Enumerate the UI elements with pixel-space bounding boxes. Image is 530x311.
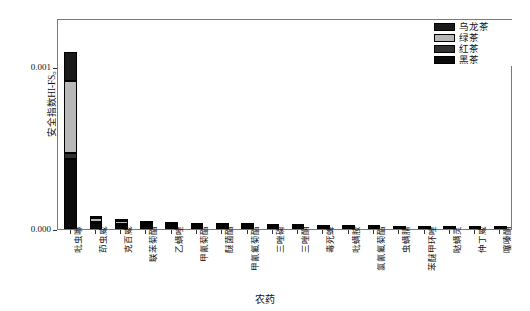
x-tick-label: 毒死蜱: [326, 226, 335, 288]
x-tick-label: 哒螨灵: [453, 226, 462, 288]
x-tick-mark: [221, 230, 222, 234]
x-tick-label: 苯醚甲环唑: [428, 226, 437, 288]
x-tick-mark: [171, 230, 172, 234]
legend-swatch: [434, 34, 455, 42]
x-tick-label: 甲氰菊酯: [200, 226, 209, 288]
x-tick-label: 乙螨唑: [175, 226, 184, 288]
x-tick-mark: [373, 230, 374, 234]
legend-item: 黑茶: [434, 54, 510, 65]
x-tick-mark: [70, 230, 71, 234]
legend-swatch: [434, 45, 455, 53]
x-tick-label: 吡虫啉: [74, 226, 83, 288]
x-axis-title: 农药: [0, 291, 530, 306]
legend-label: 黑茶: [459, 55, 479, 65]
x-tick-mark: [449, 230, 450, 234]
chart-legend: 乌龙茶绿茶红茶黑茶: [432, 20, 512, 66]
bar-segment: [64, 81, 77, 152]
x-tick-label: 噻嗪酮: [503, 226, 512, 288]
x-tick-label: 三唑酮: [301, 226, 310, 288]
y-tick-mark: [53, 230, 57, 231]
x-tick-label: 氯氰氟菊酯: [377, 226, 386, 288]
legend-label: 红茶: [459, 44, 479, 54]
x-tick-mark: [322, 230, 323, 234]
y-tick-label: 0.001: [11, 62, 51, 72]
x-tick-label: 联苯菊酯: [149, 226, 158, 288]
y-tick-label: 0.000: [11, 224, 51, 234]
x-tick-mark: [145, 230, 146, 234]
legend-swatch: [434, 23, 455, 31]
x-tick-mark: [272, 230, 273, 234]
bar-segment: [115, 219, 128, 221]
x-tick-mark: [120, 230, 121, 234]
x-tick-label: 甲氰氟菊酯: [251, 226, 260, 288]
bar-segment: [140, 221, 153, 223]
legend-label: 绿茶: [459, 33, 479, 43]
y-axis-title: 安全指数HI-FS。: [44, 41, 58, 161]
x-tick-label: 醚菌酯: [225, 226, 234, 288]
bar-segment: [90, 218, 103, 222]
x-tick-label: 茚虫威: [99, 226, 108, 288]
x-tick-label: 克百威: [124, 226, 133, 288]
bar-segment: [165, 222, 178, 224]
x-tick-mark: [499, 230, 500, 234]
bar-segment: [64, 153, 77, 159]
legend-item: 红茶: [434, 43, 510, 54]
bar-segment: [90, 216, 103, 218]
bar-segment: [64, 52, 77, 81]
x-tick-label: 虫螨腈: [402, 226, 411, 288]
x-tick-mark: [95, 230, 96, 234]
bar-segment: [115, 221, 128, 224]
legend-item: 乌龙茶: [434, 21, 510, 32]
x-tick-label: 吡螨胺: [352, 226, 361, 288]
x-tick-mark: [424, 230, 425, 234]
x-tick-mark: [474, 230, 475, 234]
bar-segment: [140, 223, 153, 225]
x-tick-mark: [196, 230, 197, 234]
x-tick-mark: [297, 230, 298, 234]
chart-figure: 安全指数HI-FS。 0.0000.001 吡虫啉茚虫威克百威联苯菊酯乙螨唑甲氰…: [0, 0, 530, 311]
x-tick-label: 仲丁威: [478, 226, 487, 288]
legend-swatch: [434, 56, 455, 64]
x-tick-mark: [398, 230, 399, 234]
x-tick-mark: [247, 230, 248, 234]
bar-segment: [64, 159, 77, 229]
x-tick-mark: [348, 230, 349, 234]
bar-segment: [191, 223, 204, 225]
bar-segment: [216, 223, 229, 225]
legend-item: 绿茶: [434, 32, 510, 43]
bar-stack: [64, 52, 77, 229]
x-tick-label: 三唑磷: [276, 226, 285, 288]
legend-label: 乌龙茶: [459, 22, 489, 32]
